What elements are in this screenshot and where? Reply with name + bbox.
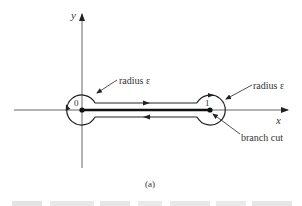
x-axis-label: x bbox=[275, 114, 281, 126]
subcaption: (a) bbox=[145, 179, 155, 189]
right-circle-arrow-icon bbox=[208, 93, 214, 98]
point-label-1: 1 bbox=[205, 98, 210, 108]
branch-cut-label: branch cut bbox=[241, 132, 283, 143]
right-radius-label: radius ε bbox=[253, 80, 284, 91]
dogbone-contour-diagram: y x 0 1 radius ε radius ε branch cut (a) bbox=[0, 0, 302, 206]
caption-line-faded bbox=[12, 201, 292, 206]
y-axis-label: y bbox=[70, 9, 76, 21]
point-label-0: 0 bbox=[74, 98, 79, 108]
lower-path-arrow-icon bbox=[143, 115, 150, 120]
left-radius-label: radius ε bbox=[119, 75, 150, 86]
right-radius-leader bbox=[226, 85, 252, 99]
upper-path-arrow-icon bbox=[143, 101, 150, 106]
branch-point-1 bbox=[207, 107, 212, 112]
left-radius-leader bbox=[97, 80, 117, 93]
branch-point-0 bbox=[79, 107, 84, 112]
